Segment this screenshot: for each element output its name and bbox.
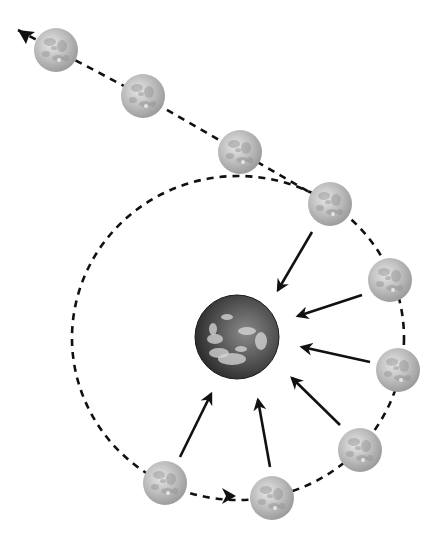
gravity-arrow-icon (278, 232, 312, 290)
moon-6 (376, 348, 420, 392)
moon-orbit-diagram (0, 0, 442, 534)
moon-2 (121, 74, 165, 118)
gravity-arrow-icon (302, 347, 370, 362)
moon-7 (338, 428, 382, 472)
earth-globe (195, 295, 279, 379)
gravity-arrow-icon (258, 400, 270, 467)
moon-9 (143, 461, 187, 505)
moon-4 (308, 182, 352, 226)
moon-5 (368, 258, 412, 302)
earth (195, 295, 279, 379)
moon-3 (218, 130, 262, 174)
orbit-direction-arrow-icon (222, 488, 236, 504)
gravity-arrow-icon (292, 378, 340, 425)
gravity-arrow-icon (298, 295, 362, 316)
moon-8 (250, 476, 294, 520)
gravity-arrow-icon (180, 394, 211, 457)
moon-1 (34, 28, 78, 72)
moons (34, 28, 420, 520)
diagram-canvas (0, 0, 442, 534)
